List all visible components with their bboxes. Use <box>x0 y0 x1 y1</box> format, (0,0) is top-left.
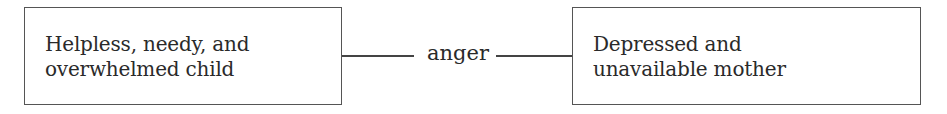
node-mother-label: Depressed and unavailable mother <box>593 32 786 82</box>
node-child-line-1: Helpless, needy, and <box>45 32 249 57</box>
edge-label-anger: anger <box>427 41 489 65</box>
connector-left-segment <box>342 55 414 57</box>
node-mother-line-1: Depressed and <box>593 32 786 57</box>
node-mother: Depressed and unavailable mother <box>572 7 921 105</box>
node-child-line-2: overwhelmed child <box>45 57 249 82</box>
connector-right-segment <box>496 55 572 57</box>
node-child: Helpless, needy, and overwhelmed child <box>24 7 342 105</box>
node-child-label: Helpless, needy, and overwhelmed child <box>45 32 249 82</box>
node-mother-line-2: unavailable mother <box>593 57 786 82</box>
